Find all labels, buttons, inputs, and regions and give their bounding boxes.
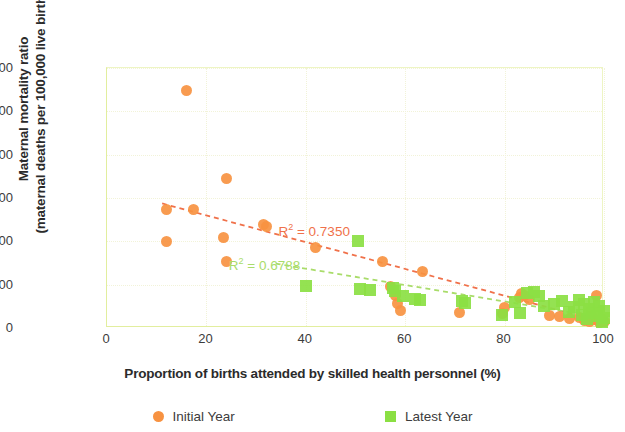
y-axis-tick-label: 600 [0,190,13,205]
legend-item-initial-year[interactable]: Initial Year [153,409,235,424]
y-axis-title: Maternal mortality ratio (maternal death… [15,0,49,259]
legend-marker-square-icon [385,411,396,422]
y-axis-title-line2: (maternal deaths per 100,000 live births… [32,0,49,259]
x-axis-tick-label: 100 [573,331,625,346]
x-axis-tick-label: 0 [76,331,136,346]
maternal-mortality-scatter-chart: Maternal mortality ratio (maternal death… [0,0,625,432]
y-axis-tick-label: 0 [0,320,13,335]
y-axis-title-line1: Maternal mortality ratio [15,0,32,259]
r-squared-annotation: R2 = 0.6788 [229,256,300,273]
trendline-layer [107,68,602,326]
plot-area: R2 = 0.7350R2 = 0.6788 [106,67,603,327]
y-axis-tick-label: 400 [0,233,13,248]
y-axis-tick-label: 200 [0,276,13,291]
x-axis-tick-label: 20 [175,331,235,346]
y-axis-tick-label: 1,000 [0,103,13,118]
legend-label-initial-year: Initial Year [173,409,235,424]
chart-legend: Initial Year Latest Year [0,404,625,428]
r-squared-annotation: R2 = 0.7350 [278,222,349,239]
x-axis-tick-label: 40 [275,331,335,346]
y-axis-tick-label: 800 [0,146,13,161]
y-axis-tick-label: 1,200 [0,60,13,75]
legend-label-latest-year: Latest Year [405,409,473,424]
legend-item-latest-year[interactable]: Latest Year [385,409,473,424]
x-axis-title: Proportion of births attended by skilled… [0,366,625,381]
x-axis-tick-label: 80 [474,331,534,346]
gridline-vertical [604,68,605,326]
legend-marker-circle-icon [153,411,164,422]
trendline [276,264,601,318]
x-axis-tick-label: 60 [374,331,434,346]
